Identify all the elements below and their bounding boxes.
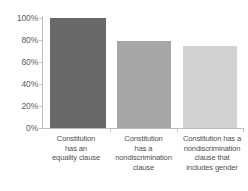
x-category-line: includes gender xyxy=(177,163,247,173)
x-category-line: has an xyxy=(42,144,110,154)
y-tick-label: 60% xyxy=(4,58,38,67)
x-tick-mark xyxy=(177,129,178,132)
y-tick-mark xyxy=(39,128,42,129)
x-tick-mark xyxy=(110,129,111,132)
x-category-line: equality clause xyxy=(42,153,110,163)
bar-constitution-nondiscrimination-clause xyxy=(117,41,171,128)
x-category-line: nondiscrimination xyxy=(177,144,247,154)
x-axis-line xyxy=(42,128,244,129)
y-tick-label: 0% xyxy=(4,124,38,133)
x-category-line: clause xyxy=(110,163,177,173)
bar-constitution-equality-clause xyxy=(50,18,106,128)
bar-constitution-nondiscrimination-includes-gender xyxy=(183,46,237,129)
y-tick-mark xyxy=(39,40,42,41)
x-category-label-1: Constitution has an equality clause xyxy=(42,134,110,163)
x-category-label-2: Constitution has a nondiscrimination cla… xyxy=(110,134,177,172)
y-tick-label: 80% xyxy=(4,36,38,45)
y-axis-ticks: 100% 80% 60% 40% 20% 0% xyxy=(0,0,38,191)
x-category-line: clause that xyxy=(177,153,247,163)
y-tick-mark xyxy=(39,106,42,107)
x-tick-mark xyxy=(243,129,244,132)
x-category-line: Constitution xyxy=(42,134,110,144)
y-tick-mark xyxy=(39,62,42,63)
y-tick-label: 20% xyxy=(4,102,38,111)
x-category-line: Constitution xyxy=(110,134,177,144)
y-tick-label: 100% xyxy=(4,14,38,23)
plot-area xyxy=(43,18,244,128)
y-tick-mark xyxy=(39,18,42,19)
x-category-line: has a xyxy=(110,144,177,154)
y-tick-mark xyxy=(39,84,42,85)
x-category-label-3: Constitution has a nondiscrimination cla… xyxy=(177,134,247,172)
x-category-line: nondiscrimination xyxy=(110,153,177,163)
x-category-line: Constitution has a xyxy=(177,134,247,144)
y-tick-label: 40% xyxy=(4,80,38,89)
bar-chart: 100% 80% 60% 40% 20% 0% Constitution has… xyxy=(0,0,248,191)
